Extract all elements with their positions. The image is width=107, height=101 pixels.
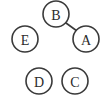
node-label-d: D <box>34 75 44 90</box>
node-b[interactable]: B <box>43 1 69 27</box>
node-label-b: B <box>51 8 60 23</box>
graph-diagram: B A E D C <box>0 0 107 101</box>
edge-group <box>66 23 77 31</box>
node-c[interactable]: C <box>62 68 88 94</box>
node-group: B A E D C <box>12 1 99 94</box>
graph-canvas: B A E D C <box>0 0 107 101</box>
node-d[interactable]: D <box>26 68 52 94</box>
node-label-a: A <box>81 33 92 48</box>
node-e[interactable]: E <box>12 26 38 52</box>
node-a[interactable]: A <box>73 26 99 52</box>
edge-b-a <box>66 23 77 31</box>
node-label-e: E <box>21 33 30 48</box>
node-label-c: C <box>70 75 79 90</box>
